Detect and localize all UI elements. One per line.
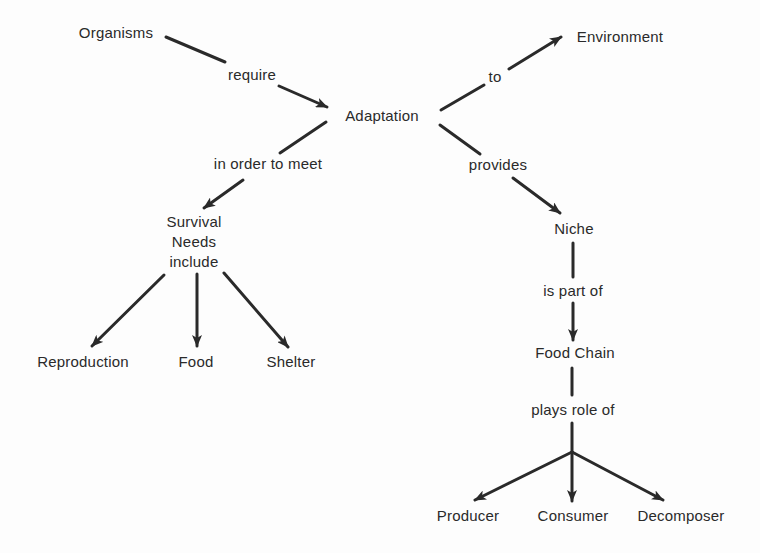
edge-provides-niche xyxy=(513,178,560,213)
edge-to-environment xyxy=(509,37,561,69)
edge-adaptation-to xyxy=(441,85,484,110)
edge-organisms-require xyxy=(166,37,225,62)
link-label-in-order-to-meet: in order to meet xyxy=(214,154,322,174)
link-label-to: to xyxy=(489,67,502,87)
concept-food-chain: Food Chain xyxy=(535,343,615,363)
edge-adaptation-provides xyxy=(440,125,480,154)
survival-needs-line-2: Needs xyxy=(167,232,222,252)
concept-producer: Producer xyxy=(437,506,499,526)
edge-junction-decomposer xyxy=(572,452,663,500)
survival-needs-line-3: include xyxy=(167,252,222,272)
link-label-is-part-of: is part of xyxy=(543,281,603,301)
concept-shelter: Shelter xyxy=(267,352,316,372)
concept-organisms: Organisms xyxy=(79,23,153,43)
edge-junction-producer xyxy=(475,452,572,500)
concept-reproduction: Reproduction xyxy=(37,352,129,372)
concept-map-canvas: Organisms require Adaptation to Environm… xyxy=(0,0,760,553)
edge-needs-reproduction xyxy=(92,275,164,346)
concept-adaptation: Adaptation xyxy=(345,106,419,126)
concept-survival-needs: Survival Needs include xyxy=(167,212,222,272)
edge-layer xyxy=(0,0,760,553)
edge-require-adaptation xyxy=(279,86,327,107)
link-label-provides: provides xyxy=(469,155,527,175)
concept-environment: Environment xyxy=(577,27,663,47)
survival-needs-line-1: Survival xyxy=(167,212,222,232)
concept-decomposer: Decomposer xyxy=(637,506,724,526)
edge-needs-shelter xyxy=(224,273,288,347)
concept-niche: Niche xyxy=(554,219,593,239)
link-label-plays-role-of: plays role of xyxy=(531,400,614,420)
concept-consumer: Consumer xyxy=(538,506,609,526)
link-label-require: require xyxy=(228,65,276,85)
edge-adaptation-inorder xyxy=(280,122,326,153)
edge-inorder-survival xyxy=(204,180,243,208)
concept-food: Food xyxy=(179,352,214,372)
